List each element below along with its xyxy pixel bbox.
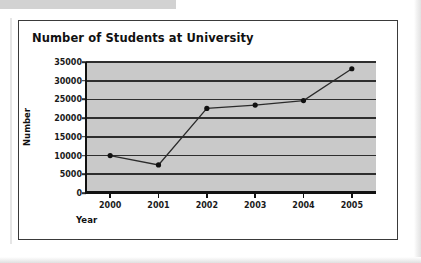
page-canvas: Number of Students at University Number …: [0, 0, 421, 263]
scan-artifact-left-shadow: [10, 18, 12, 244]
scan-artifact-top-bar: [0, 0, 176, 9]
data-point-marker: [349, 66, 354, 71]
data-point-marker: [108, 153, 113, 158]
data-point-marker: [253, 102, 258, 107]
series-line: [110, 69, 352, 165]
scan-artifact-bottom-edge: [0, 257, 421, 263]
data-point-marker: [156, 162, 161, 167]
data-series-layer: [19, 21, 399, 241]
scan-artifact-right-edge: [414, 0, 421, 263]
chart-frame: Number of Students at University Number …: [18, 20, 398, 240]
data-point-marker: [301, 98, 306, 103]
data-point-marker: [204, 106, 209, 111]
